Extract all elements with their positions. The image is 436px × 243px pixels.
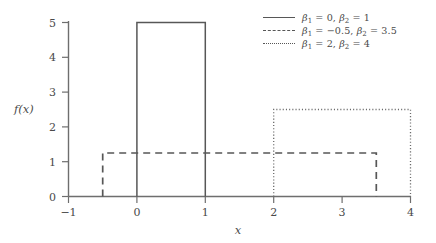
x-tick-label-4: 4: [407, 206, 414, 219]
y-tick-label-1: 1: [49, 156, 56, 169]
x-tick-label-1: 1: [202, 206, 209, 219]
y-axis-ticks: [62, 23, 69, 197]
y-tick-label-0: 0: [49, 191, 56, 204]
uniform-pdf-chart: 0 1 2 3 4 5 −1 0 1 2 3 4 f(x) x: [0, 0, 436, 243]
x-axis-ticks: [69, 197, 411, 204]
y-tick-label-5: 5: [49, 17, 56, 30]
y-tick-label-3: 3: [49, 86, 56, 99]
legend: β1 = 0, β2 = 1 β1 = −0.5, β2 = 3.5 β1 = …: [262, 11, 432, 50]
x-axis-title: x: [235, 223, 242, 237]
y-axis-title: f(x): [13, 102, 34, 116]
legend-entry-dashed: β1 = −0.5, β2 = 3.5: [262, 24, 432, 37]
y-tick-label-4: 4: [49, 51, 56, 64]
x-tick-label-0: 0: [133, 206, 140, 219]
legend-label-dotted: β1 = 2, β2 = 4: [296, 38, 370, 49]
legend-label-dashed: β1 = −0.5, β2 = 3.5: [296, 25, 397, 36]
series-solid-uniform-0-1: [137, 23, 205, 197]
x-tick-label-3: 3: [339, 206, 346, 219]
y-tick-label-2: 2: [49, 121, 56, 134]
x-tick-label-2: 2: [270, 206, 277, 219]
legend-swatch-dashed-line-icon: [262, 25, 296, 36]
series-dashed-uniform-neg0.5-3.5: [103, 153, 377, 197]
legend-entry-solid: β1 = 0, β2 = 1: [262, 11, 432, 24]
legend-swatch-dotted-line-icon: [262, 38, 296, 49]
legend-label-solid: β1 = 0, β2 = 1: [296, 12, 370, 23]
x-tick-label-minus-1: −1: [60, 206, 76, 219]
legend-entry-dotted: β1 = 2, β2 = 4: [262, 37, 432, 50]
legend-swatch-solid-line-icon: [262, 12, 296, 23]
